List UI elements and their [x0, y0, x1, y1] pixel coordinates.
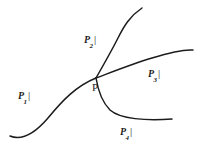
junction-point-label: P	[92, 82, 98, 93]
curve-branch-1	[10, 78, 96, 137]
curve-canvas	[0, 0, 203, 148]
label-branch-1: P1|	[18, 90, 30, 104]
label-branch-1-subscript: 1	[24, 98, 28, 106]
label-branch-3: P3|	[148, 68, 160, 82]
label-branch-2-bar: |	[94, 33, 96, 45]
curve-branch-4	[96, 78, 172, 120]
curve-branch-3	[96, 50, 193, 78]
label-branch-1-bar: |	[28, 89, 30, 101]
branch-diagram-figure: P1| P2| P3| P4| P	[0, 0, 203, 148]
label-branch-4-bar: |	[130, 125, 132, 137]
curve-branch-2	[96, 8, 142, 78]
label-branch-4-subscript: 4	[126, 134, 130, 142]
label-branch-3-subscript: 3	[154, 76, 158, 84]
label-branch-3-bar: |	[158, 67, 160, 79]
label-branch-4: P4|	[120, 126, 132, 140]
label-branch-2-subscript: 2	[90, 42, 94, 50]
label-branch-2: P2|	[84, 34, 96, 48]
